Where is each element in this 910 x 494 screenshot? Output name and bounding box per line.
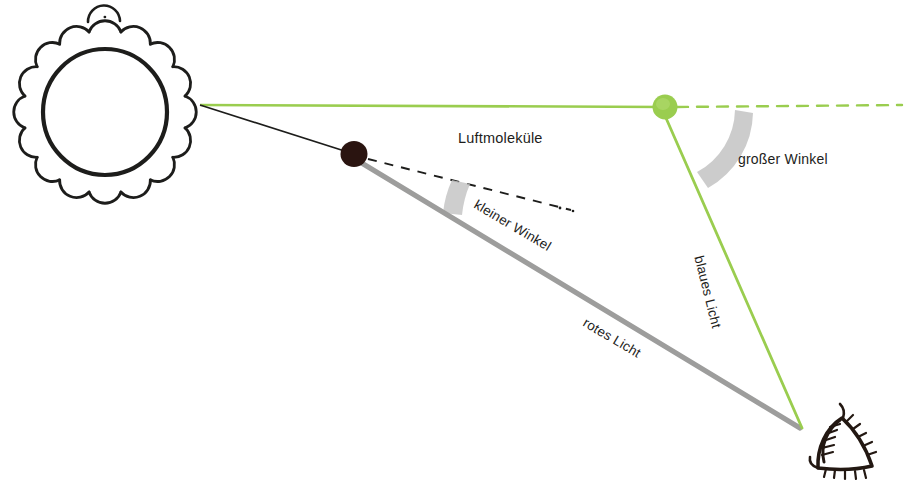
small-angle-arc (443, 180, 470, 215)
scattering-diagram: Luftmoleküle großer Winkel kleiner Winke… (0, 0, 910, 494)
observer-eye-icon (810, 404, 876, 479)
dark-air-molecule (341, 141, 368, 167)
sun-disc (43, 49, 167, 175)
black-dash-dot-2 (572, 210, 575, 213)
diagram-canvas (0, 0, 910, 494)
black-incoming-ray (200, 105, 354, 154)
red-light-ray (360, 162, 800, 428)
green-dashed-continuation (677, 105, 902, 107)
green-air-molecule-highlight (656, 98, 670, 110)
sun-graphic (14, 5, 197, 203)
label-luftmolekuele: Luftmoleküle (458, 130, 543, 146)
green-incoming-ray (200, 105, 665, 107)
black-dash-dot-1 (559, 207, 562, 210)
label-grosser-winkel: großer Winkel (738, 151, 828, 167)
large-angle-arc (697, 110, 753, 188)
